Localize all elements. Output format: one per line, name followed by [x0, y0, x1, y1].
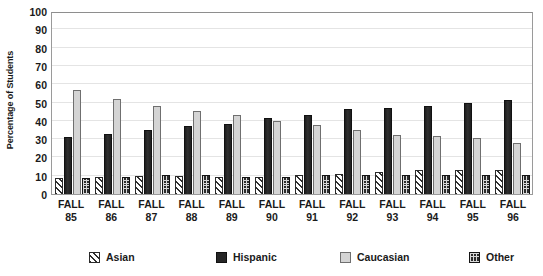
x-axis-tick-line2: 93 [372, 211, 412, 224]
bar-caucasian [273, 121, 281, 194]
bar-other [522, 175, 530, 194]
bar-group [412, 13, 452, 194]
x-axis-tick-line1: FALL [339, 198, 365, 210]
bar-other [362, 175, 370, 194]
bar-hispanic [304, 115, 312, 194]
bar-group [132, 13, 172, 194]
x-axis-tick-line2: 85 [51, 211, 91, 224]
x-axis-tick: FALL86 [91, 198, 131, 234]
x-axis-tick-line2: 90 [252, 211, 292, 224]
y-axis-tick: 0 [41, 190, 47, 201]
bar-other [282, 177, 290, 194]
bar-asian [55, 178, 63, 194]
bar-group [172, 13, 212, 194]
bar-asian [175, 176, 183, 194]
y-axis-tick: 60 [35, 80, 47, 91]
bar-asian [295, 175, 303, 194]
bar-hispanic [104, 134, 112, 194]
y-axis-title-label: Percentage of Students [5, 51, 15, 149]
x-axis-tick-line2: 91 [292, 211, 332, 224]
x-axis-tick: FALL93 [372, 198, 412, 234]
bar-other [162, 175, 170, 194]
bar-other [82, 178, 90, 194]
x-axis-tick: FALL94 [413, 198, 453, 234]
bar-hispanic [424, 106, 432, 194]
bar-group [452, 13, 492, 194]
legend-swatch-other-icon [469, 252, 480, 263]
bar-asian [495, 170, 503, 194]
bar-other [322, 175, 330, 194]
bar-asian [335, 174, 343, 194]
bar-chart: Percentage of Students 01020304050607080… [0, 0, 543, 276]
x-axis-tick-line1: FALL [98, 198, 124, 210]
y-axis-tick-labels: 0102030405060708090100 [20, 0, 50, 200]
bar-other [482, 175, 490, 194]
bar-asian [215, 177, 223, 194]
bar-hispanic [344, 109, 352, 194]
legend-swatch-hispanic-icon [216, 252, 227, 263]
bar-asian [415, 170, 423, 194]
x-axis-tick-labels: FALL85FALL86FALL87FALL88FALL89FALL90FALL… [51, 198, 533, 234]
bar-caucasian [513, 143, 521, 194]
x-axis-tick: FALL91 [292, 198, 332, 234]
bar-group [292, 13, 332, 194]
bar-other [202, 175, 210, 194]
x-axis-tick-line1: FALL [138, 198, 164, 210]
bar-asian [375, 172, 383, 194]
bar-other [442, 175, 450, 194]
x-axis-tick-line2: 92 [332, 211, 372, 224]
x-axis-tick-line1: FALL [259, 198, 285, 210]
bar-caucasian [473, 138, 481, 194]
y-axis-tick: 20 [35, 153, 47, 164]
x-axis-tick-line1: FALL [178, 198, 204, 210]
bar-groups [52, 13, 532, 194]
x-axis-tick-line2: 95 [453, 211, 493, 224]
x-axis-tick: FALL88 [172, 198, 212, 234]
y-axis-title: Percentage of Students [0, 0, 20, 200]
legend-item-hispanic: Hispanic [199, 251, 335, 263]
x-axis-tick: FALL96 [493, 198, 533, 234]
x-axis-tick: FALL89 [212, 198, 252, 234]
bar-hispanic [464, 103, 472, 195]
y-axis-tick: 10 [35, 171, 47, 182]
chart-legend: AsianHispanicCaucasianOther [51, 246, 533, 268]
legend-label: Other [486, 251, 514, 263]
x-axis-tick-line2: 86 [91, 211, 131, 224]
y-axis-tick: 80 [35, 43, 47, 54]
bar-caucasian [313, 125, 321, 194]
bar-group [372, 13, 412, 194]
legend-label: Caucasian [357, 251, 410, 263]
legend-label: Hispanic [233, 251, 277, 263]
legend-item-caucasian: Caucasian [335, 251, 461, 263]
bar-hispanic [384, 108, 392, 194]
legend-item-asian: Asian [51, 251, 199, 263]
bar-group [492, 13, 532, 194]
bar-hispanic [504, 100, 512, 194]
bar-group [252, 13, 292, 194]
x-axis-tick-line1: FALL [379, 198, 405, 210]
y-axis-tick: 50 [35, 98, 47, 109]
bar-other [402, 175, 410, 194]
bar-caucasian [153, 106, 161, 194]
bar-other [122, 177, 130, 194]
bar-hispanic [64, 137, 72, 194]
x-axis-tick-line1: FALL [460, 198, 486, 210]
bar-caucasian [353, 130, 361, 194]
legend-swatch-asian-icon [89, 252, 100, 263]
bar-caucasian [233, 115, 241, 194]
bar-caucasian [73, 90, 81, 194]
x-axis-tick-line2: 94 [413, 211, 453, 224]
x-axis-tick-line1: FALL [420, 198, 446, 210]
bar-asian [135, 176, 143, 194]
bar-hispanic [224, 124, 232, 194]
x-axis-tick-line2: 89 [212, 211, 252, 224]
bar-other [242, 177, 250, 194]
x-axis-tick-line1: FALL [219, 198, 245, 210]
x-axis-tick: FALL92 [332, 198, 372, 234]
legend-item-other: Other [461, 251, 533, 263]
x-axis-tick: FALL87 [131, 198, 171, 234]
x-axis-tick-line1: FALL [299, 198, 325, 210]
y-axis-tick: 30 [35, 135, 47, 146]
x-axis-tick: FALL85 [51, 198, 91, 234]
bar-asian [455, 170, 463, 194]
